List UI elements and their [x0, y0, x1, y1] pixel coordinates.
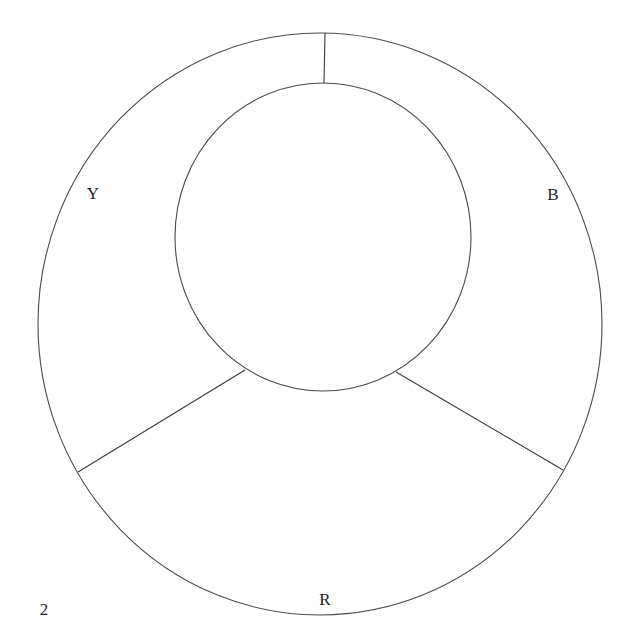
ring-diagram: Y B R 2 [0, 0, 628, 634]
divider-lower-left [78, 370, 245, 472]
figure-number: 2 [40, 600, 49, 619]
segment-label-r: R [319, 590, 331, 609]
outer-ring [38, 33, 602, 615]
inner-circle [175, 83, 471, 391]
segment-label-b: B [547, 185, 558, 204]
divider-top [324, 33, 325, 83]
segment-label-y: Y [87, 184, 99, 203]
divider-lower-right [396, 372, 563, 470]
